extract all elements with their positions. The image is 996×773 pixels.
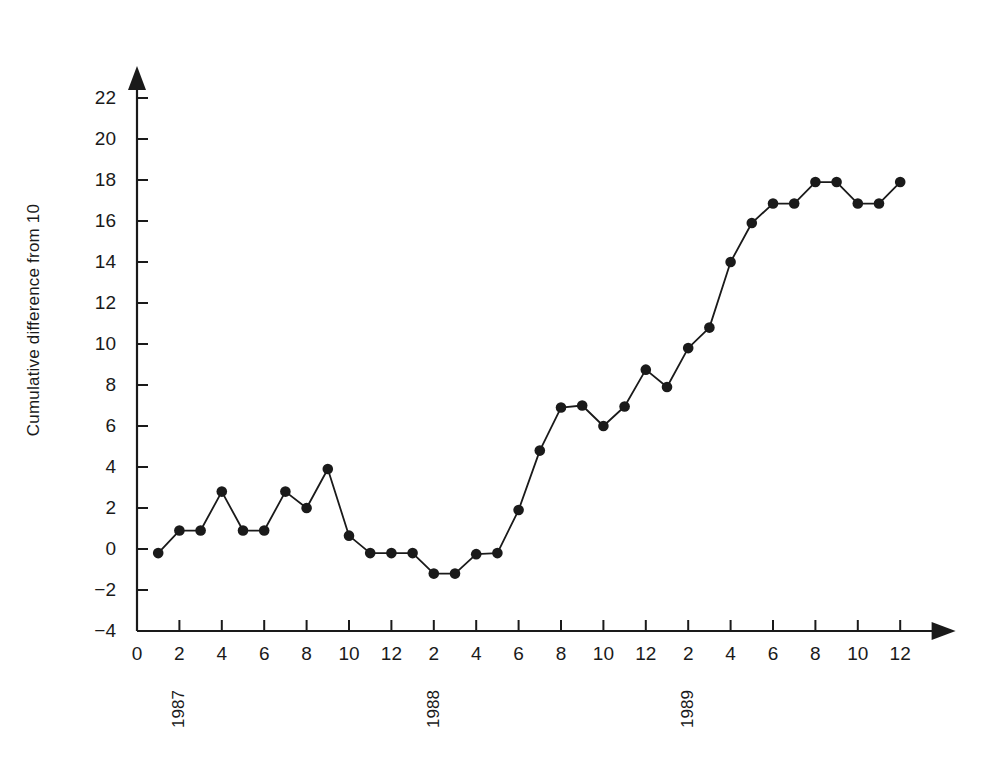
data-point-marker: 1988-08: 6.9 bbox=[556, 402, 567, 413]
data-point-marker: 1989-07: 16.85 bbox=[789, 198, 800, 209]
data-point-markers: 1987-01: -0.21987-02: 0.91987-03: 0.9198… bbox=[153, 177, 906, 579]
x-tick-label: 10 bbox=[847, 643, 868, 665]
data-point-marker: 1987-11: -0.2 bbox=[365, 548, 376, 559]
data-point-marker: 1987-12: -0.2 bbox=[386, 548, 397, 559]
data-point-marker: 1989-05: 15.9 bbox=[747, 218, 758, 229]
x-tick-label: 12 bbox=[635, 643, 656, 665]
data-point-marker: 1988-04: -0.25 bbox=[471, 549, 482, 560]
data-point-marker: 1989-09: 17.9 bbox=[831, 177, 842, 188]
x-tick-label: 12 bbox=[890, 643, 911, 665]
series-polyline bbox=[158, 182, 900, 574]
data-point-marker: 1988-02: -1.2 bbox=[429, 568, 440, 579]
data-point-marker: 1987-02: 0.9 bbox=[174, 525, 185, 536]
data-point-marker: 1988-05: -0.2 bbox=[492, 548, 503, 559]
y-axis-arrowhead bbox=[128, 66, 146, 90]
year-label: 1989 bbox=[658, 679, 718, 739]
x-tick-label: 6 bbox=[768, 643, 779, 665]
y-tick-label: −2 bbox=[60, 579, 116, 601]
data-point-marker: 1989-11: 16.85 bbox=[874, 198, 885, 209]
data-point-marker: 1987-05: 0.9 bbox=[238, 525, 249, 536]
data-point-marker: 1989-08: 17.9 bbox=[810, 177, 821, 188]
data-point-marker: 1989-03: 10.8 bbox=[704, 322, 715, 333]
y-tick-label: 22 bbox=[60, 87, 116, 109]
x-tick-label: 10 bbox=[338, 643, 359, 665]
data-point-marker: 1987-03: 0.9 bbox=[195, 525, 206, 536]
x-tick-label: 12 bbox=[381, 643, 402, 665]
cumulative-difference-chart: Cumulative difference from 10 1987-01: -… bbox=[0, 0, 996, 773]
x-axis-arrowhead bbox=[932, 622, 956, 640]
x-tick-label: 0 bbox=[132, 643, 143, 665]
data-point-marker: 1988-01: -0.2 bbox=[407, 548, 418, 559]
data-point-marker: 1987-10: 0.65 bbox=[344, 530, 355, 541]
y-tick-label: 4 bbox=[60, 456, 116, 478]
data-point-marker: 1988-07: 4.8 bbox=[535, 445, 546, 456]
y-tick-label: 10 bbox=[60, 333, 116, 355]
y-tick-label: 8 bbox=[60, 374, 116, 396]
x-tick-label: 4 bbox=[217, 643, 228, 665]
data-series-line bbox=[158, 182, 900, 574]
data-point-marker: 1989-02: 9.8 bbox=[683, 343, 694, 354]
x-tick-label: 4 bbox=[725, 643, 736, 665]
axes-group bbox=[128, 66, 956, 640]
tick-marks-group bbox=[137, 98, 900, 631]
data-point-marker: 1987-06: 0.9 bbox=[259, 525, 270, 536]
x-tick-label: 4 bbox=[471, 643, 482, 665]
data-point-marker: 1987-08: 2.0 bbox=[301, 503, 312, 514]
x-tick-label: 2 bbox=[174, 643, 185, 665]
data-point-marker: 1987-04: 2.8 bbox=[217, 486, 228, 497]
y-tick-label: 0 bbox=[60, 538, 116, 560]
data-point-marker: 1989-01: 7.9 bbox=[662, 382, 673, 393]
data-point-marker: 1988-10: 6.0 bbox=[598, 421, 609, 432]
year-label: 1988 bbox=[404, 679, 464, 739]
y-tick-label: −4 bbox=[60, 620, 116, 642]
x-tick-label: 2 bbox=[429, 643, 440, 665]
x-tick-label: 6 bbox=[513, 643, 524, 665]
data-point-marker: 1987-07: 2.8 bbox=[280, 486, 291, 497]
data-point-marker: 1989-10: 16.85 bbox=[853, 198, 864, 209]
data-point-marker: 1988-06: 1.9 bbox=[513, 505, 524, 516]
data-point-marker: 1988-11: 6.95 bbox=[619, 401, 630, 412]
y-tick-label: 6 bbox=[60, 415, 116, 437]
data-point-marker: 1987-01: -0.2 bbox=[153, 548, 164, 559]
y-tick-label: 12 bbox=[60, 292, 116, 314]
x-tick-label: 8 bbox=[810, 643, 821, 665]
x-tick-label: 8 bbox=[301, 643, 312, 665]
year-label: 1987 bbox=[149, 679, 209, 739]
y-tick-label: 16 bbox=[60, 210, 116, 232]
data-point-marker: 1988-03: -1.2 bbox=[450, 568, 461, 579]
data-point-marker: 1988-09: 7.0 bbox=[577, 400, 588, 411]
y-tick-label: 14 bbox=[60, 251, 116, 273]
data-point-marker: 1989-04: 14.0 bbox=[725, 257, 736, 268]
y-tick-label: 2 bbox=[60, 497, 116, 519]
data-point-marker: 1989-12: 17.9 bbox=[895, 177, 906, 188]
x-tick-label: 8 bbox=[556, 643, 567, 665]
x-tick-label: 6 bbox=[259, 643, 270, 665]
x-tick-label: 10 bbox=[593, 643, 614, 665]
data-point-marker: 1988-12: 8.75 bbox=[641, 364, 652, 375]
y-tick-label: 18 bbox=[60, 169, 116, 191]
data-point-marker: 1989-06: 16.85 bbox=[768, 198, 779, 209]
data-point-marker: 1987-09: 3.9 bbox=[323, 464, 334, 475]
x-tick-label: 2 bbox=[683, 643, 694, 665]
y-tick-label: 20 bbox=[60, 128, 116, 150]
